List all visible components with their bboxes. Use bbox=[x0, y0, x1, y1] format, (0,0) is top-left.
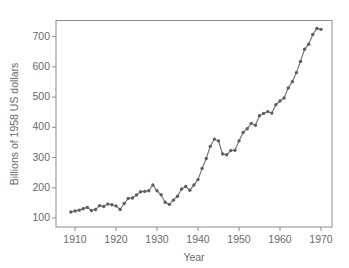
data-point bbox=[196, 178, 199, 181]
data-point bbox=[246, 127, 249, 130]
data-point bbox=[274, 103, 277, 106]
data-point bbox=[151, 183, 154, 186]
data-point bbox=[73, 209, 76, 212]
data-point bbox=[94, 208, 97, 211]
x-tick-label-1910: 1910 bbox=[63, 233, 87, 245]
data-point bbox=[180, 187, 183, 190]
y-tick-label-300: 300 bbox=[32, 151, 50, 163]
data-point bbox=[172, 198, 175, 201]
data-point bbox=[217, 139, 220, 142]
y-tick-label-700: 700 bbox=[32, 30, 50, 42]
data-point bbox=[250, 122, 253, 125]
y-tick-label-500: 500 bbox=[32, 90, 50, 102]
data-point bbox=[307, 42, 310, 45]
x-tick-label-1920: 1920 bbox=[104, 233, 128, 245]
y-tick-label-200: 200 bbox=[32, 181, 50, 193]
data-point bbox=[114, 204, 117, 207]
x-tick-label-1940: 1940 bbox=[186, 233, 210, 245]
chart-background bbox=[0, 0, 349, 268]
data-point bbox=[102, 205, 105, 208]
data-point bbox=[303, 48, 306, 51]
data-point bbox=[139, 190, 142, 193]
data-point bbox=[159, 193, 162, 196]
data-point bbox=[147, 189, 150, 192]
data-point bbox=[82, 207, 85, 210]
x-tick-label-1960: 1960 bbox=[268, 233, 292, 245]
data-point bbox=[118, 208, 121, 211]
data-point bbox=[287, 86, 290, 89]
data-point bbox=[123, 202, 126, 205]
data-point bbox=[192, 183, 195, 186]
x-tick-label-1970: 1970 bbox=[309, 233, 333, 245]
data-point bbox=[143, 190, 146, 193]
x-tick-label-1930: 1930 bbox=[145, 233, 169, 245]
x-axis-label: Year bbox=[183, 251, 205, 263]
data-point bbox=[270, 111, 273, 114]
y-tick-label-400: 400 bbox=[32, 120, 50, 132]
data-point bbox=[233, 149, 236, 152]
data-point bbox=[188, 188, 191, 191]
data-point bbox=[98, 204, 101, 207]
data-point bbox=[200, 167, 203, 170]
data-point bbox=[127, 197, 130, 200]
data-point bbox=[184, 185, 187, 188]
data-point bbox=[266, 110, 269, 113]
x-tick-label-1950: 1950 bbox=[227, 233, 251, 245]
y-axis-label: Billions of 1958 US dollars bbox=[8, 63, 20, 186]
data-point bbox=[86, 206, 89, 209]
data-point bbox=[282, 96, 285, 99]
data-point bbox=[291, 80, 294, 83]
data-point bbox=[278, 99, 281, 102]
data-point bbox=[254, 123, 257, 126]
data-point bbox=[299, 60, 302, 63]
data-point bbox=[176, 195, 179, 198]
data-point bbox=[164, 201, 167, 204]
data-point bbox=[90, 209, 93, 212]
data-point bbox=[311, 33, 314, 36]
data-point bbox=[221, 152, 224, 155]
data-point bbox=[155, 189, 158, 192]
data-point bbox=[131, 196, 134, 199]
data-point bbox=[69, 210, 72, 213]
data-point bbox=[315, 27, 318, 30]
data-point bbox=[237, 139, 240, 142]
data-point bbox=[295, 71, 298, 74]
y-tick-label-600: 600 bbox=[32, 60, 50, 72]
data-point bbox=[209, 145, 212, 148]
data-point bbox=[168, 203, 171, 206]
data-point bbox=[225, 153, 228, 156]
data-point bbox=[319, 28, 322, 31]
data-point bbox=[135, 193, 138, 196]
data-point bbox=[205, 157, 208, 160]
data-point bbox=[258, 114, 261, 117]
data-point bbox=[213, 137, 216, 140]
y-tick-label-100: 100 bbox=[32, 211, 50, 223]
data-point bbox=[262, 112, 265, 115]
data-point bbox=[77, 208, 80, 211]
data-point bbox=[229, 149, 232, 152]
data-point bbox=[110, 203, 113, 206]
data-point bbox=[241, 131, 244, 134]
data-point bbox=[106, 202, 109, 205]
gnp-line-chart: Billions of 1958 US dollars Year 700 600… bbox=[0, 0, 349, 268]
